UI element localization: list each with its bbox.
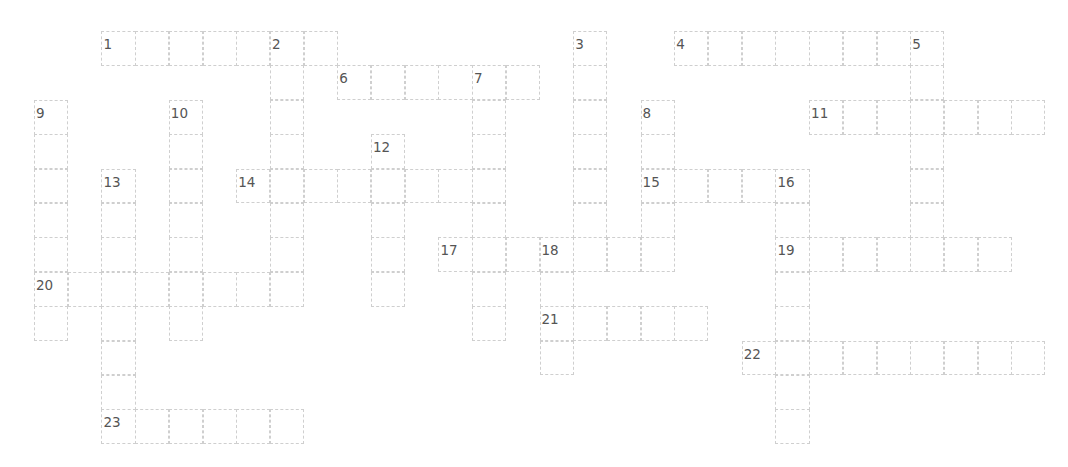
cell-letter-input[interactable] <box>473 238 505 271</box>
crossword-cell[interactable] <box>371 169 405 204</box>
cell-letter-input[interactable] <box>102 32 134 65</box>
cell-letter-input[interactable] <box>204 32 236 65</box>
crossword-cell[interactable] <box>573 306 607 341</box>
cell-letter-input[interactable] <box>271 32 303 65</box>
crossword-cell[interactable] <box>101 272 135 307</box>
crossword-cell[interactable] <box>472 100 506 135</box>
crossword-cell[interactable] <box>607 306 641 341</box>
cell-letter-input[interactable] <box>237 170 269 203</box>
cell-letter-input[interactable] <box>642 170 674 203</box>
crossword-cell[interactable] <box>775 203 809 238</box>
crossword-cell[interactable] <box>68 272 102 307</box>
cell-letter-input[interactable] <box>945 342 977 375</box>
crossword-cell[interactable] <box>775 272 809 307</box>
crossword-cell[interactable] <box>775 31 809 66</box>
crossword-cell[interactable] <box>270 409 304 444</box>
crossword-cell[interactable] <box>775 409 809 444</box>
cell-letter-input[interactable] <box>170 307 202 340</box>
crossword-cell[interactable] <box>438 169 472 204</box>
cell-letter-input[interactable] <box>844 32 876 65</box>
crossword-cell[interactable] <box>169 134 203 169</box>
cell-letter-input[interactable] <box>541 238 573 271</box>
crossword-cell[interactable]: 12 <box>371 134 405 169</box>
cell-letter-input[interactable] <box>911 66 943 99</box>
cell-letter-input[interactable] <box>237 273 269 306</box>
cell-letter-input[interactable] <box>709 32 741 65</box>
crossword-cell[interactable] <box>304 31 338 66</box>
cell-letter-input[interactable] <box>35 238 67 271</box>
crossword-cell[interactable] <box>674 169 708 204</box>
cell-letter-input[interactable] <box>642 238 674 271</box>
crossword-cell[interactable] <box>169 306 203 341</box>
crossword-cell[interactable] <box>944 237 978 272</box>
crossword-cell[interactable] <box>775 306 809 341</box>
cell-letter-input[interactable] <box>102 170 134 203</box>
crossword-cell[interactable] <box>944 341 978 376</box>
cell-letter-input[interactable] <box>170 410 202 443</box>
crossword-cell[interactable]: 22 <box>742 341 776 376</box>
crossword-cell[interactable] <box>506 65 540 100</box>
crossword-cell[interactable] <box>910 237 944 272</box>
cell-letter-input[interactable] <box>844 101 876 134</box>
cell-letter-input[interactable] <box>406 170 438 203</box>
cell-letter-input[interactable] <box>271 135 303 168</box>
crossword-cell[interactable]: 10 <box>169 100 203 135</box>
cell-letter-input[interactable] <box>204 273 236 306</box>
cell-letter-input[interactable] <box>574 307 606 340</box>
crossword-cell[interactable] <box>742 169 776 204</box>
crossword-cell[interactable] <box>304 169 338 204</box>
cell-letter-input[interactable] <box>945 101 977 134</box>
cell-letter-input[interactable] <box>1012 101 1044 134</box>
cell-letter-input[interactable] <box>305 32 337 65</box>
cell-letter-input[interactable] <box>574 66 606 99</box>
cell-letter-input[interactable] <box>878 238 910 271</box>
crossword-cell[interactable] <box>910 169 944 204</box>
crossword-cell[interactable] <box>270 237 304 272</box>
crossword-cell[interactable] <box>978 100 1012 135</box>
cell-letter-input[interactable] <box>102 410 134 443</box>
cell-letter-input[interactable] <box>271 410 303 443</box>
cell-letter-input[interactable] <box>574 170 606 203</box>
cell-letter-input[interactable] <box>979 342 1011 375</box>
cell-letter-input[interactable] <box>170 170 202 203</box>
crossword-cell[interactable] <box>270 65 304 100</box>
crossword-cell[interactable] <box>573 203 607 238</box>
crossword-cell[interactable] <box>573 169 607 204</box>
crossword-cell[interactable]: 4 <box>674 31 708 66</box>
cell-letter-input[interactable] <box>237 410 269 443</box>
cell-letter-input[interactable] <box>743 32 775 65</box>
crossword-cell[interactable] <box>236 272 270 307</box>
cell-letter-input[interactable] <box>911 342 943 375</box>
cell-letter-input[interactable] <box>776 342 808 375</box>
crossword-cell[interactable] <box>169 203 203 238</box>
cell-letter-input[interactable] <box>271 101 303 134</box>
cell-letter-input[interactable] <box>406 66 438 99</box>
crossword-cell[interactable] <box>135 272 169 307</box>
crossword-cell[interactable]: 16 <box>775 169 809 204</box>
cell-letter-input[interactable] <box>776 307 808 340</box>
cell-letter-input[interactable] <box>102 342 134 375</box>
crossword-cell[interactable] <box>236 31 270 66</box>
cell-letter-input[interactable] <box>844 342 876 375</box>
crossword-cell[interactable]: 21 <box>540 306 574 341</box>
cell-letter-input[interactable] <box>574 32 606 65</box>
crossword-cell[interactable]: 9 <box>34 100 68 135</box>
crossword-cell[interactable] <box>506 237 540 272</box>
crossword-cell[interactable] <box>708 169 742 204</box>
cell-letter-input[interactable] <box>810 342 842 375</box>
cell-letter-input[interactable] <box>372 204 404 237</box>
crossword-cell[interactable] <box>843 341 877 376</box>
cell-letter-input[interactable] <box>35 204 67 237</box>
crossword-cell[interactable] <box>809 341 843 376</box>
crossword-cell[interactable] <box>910 100 944 135</box>
crossword-cell[interactable] <box>135 409 169 444</box>
cell-letter-input[interactable] <box>372 66 404 99</box>
cell-letter-input[interactable] <box>675 170 707 203</box>
cell-letter-input[interactable] <box>271 170 303 203</box>
crossword-cell[interactable] <box>270 169 304 204</box>
crossword-cell[interactable] <box>573 65 607 100</box>
crossword-cell[interactable]: 14 <box>236 169 270 204</box>
crossword-cell[interactable] <box>34 306 68 341</box>
crossword-cell[interactable] <box>101 237 135 272</box>
cell-letter-input[interactable] <box>675 32 707 65</box>
